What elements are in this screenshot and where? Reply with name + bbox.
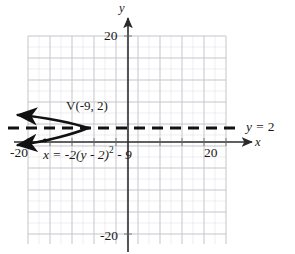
y-axis-tick-label-negative-20: -20 — [100, 229, 118, 243]
y-axis-tick-label-positive-20: 20 — [104, 29, 118, 43]
equation-main-text: x = -2(y - 2) — [43, 147, 109, 162]
y-axis-label: y — [119, 2, 125, 15]
asymptote-label-value: 2 — [268, 119, 275, 134]
x-axis-tick-label-negative-20: -20 — [10, 146, 28, 160]
plotted-point-dot — [43, 138, 47, 142]
graph-figure: y x 20 -20 -20 20 V(-9, 2) x = -2(y - 2)… — [0, 0, 295, 254]
axis-of-symmetry-label: y = 2 — [246, 120, 275, 134]
asymptote-label-prefix: y = — [246, 119, 268, 134]
x-axis-label: x — [255, 136, 261, 149]
equation-tail-text: - 9 — [114, 147, 132, 162]
vertex-label: V(-9, 2) — [66, 99, 108, 112]
x-axis-tick-label-positive-20: 20 — [204, 146, 218, 160]
equation-label: x = -2(y - 2)2 - 9 — [43, 146, 132, 161]
grid-minor — [28, 36, 226, 244]
